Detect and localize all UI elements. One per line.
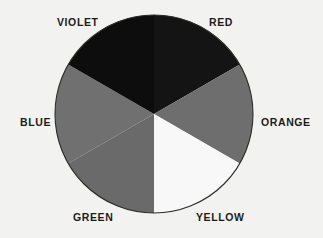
- wheel-label-orange: ORANGE: [261, 117, 311, 128]
- color-wheel-figure: VIOLET RED BLUE ORANGE GREEN YELLOW: [0, 0, 323, 238]
- wheel-label-red: RED: [209, 17, 233, 28]
- wheel-label-yellow: YELLOW: [196, 212, 245, 223]
- wheel-label-green: GREEN: [73, 212, 113, 223]
- wheel-label-blue: BLUE: [20, 117, 51, 128]
- wheel-label-violet: VIOLET: [57, 17, 99, 28]
